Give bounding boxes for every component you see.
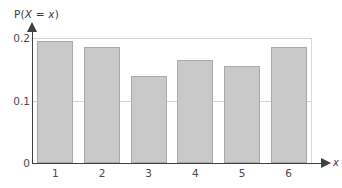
x-axis-tick-label: 6: [269, 167, 309, 179]
gridline: [32, 38, 312, 39]
y-axis-title-suffix: ): [55, 8, 59, 20]
bar: [84, 47, 120, 163]
bar: [271, 47, 307, 163]
bar: [224, 66, 260, 163]
y-axis-tick-label: 0: [2, 157, 30, 169]
chart-canvas: P(X = x) x 00.10.2 123456: [0, 0, 342, 188]
bar: [131, 76, 167, 164]
x-axis-tick-label: 3: [129, 167, 169, 179]
y-axis-line: [32, 31, 33, 163]
bar: [177, 60, 213, 163]
x-axis-title: x: [333, 157, 339, 168]
bar: [37, 41, 73, 163]
x-axis-tick-label: 5: [222, 167, 262, 179]
y-axis-tick-label: 0.1: [2, 95, 30, 107]
y-axis-title-middle: =: [32, 8, 48, 20]
x-axis-line: [32, 163, 323, 164]
y-axis-tick-label: 0.2: [2, 32, 30, 44]
y-axis-tick-labels: 00.10.2: [0, 0, 30, 188]
x-axis-arrow-icon: [321, 158, 331, 168]
x-axis-tick-label: 1: [35, 167, 75, 179]
x-axis-tick-label: 2: [82, 167, 122, 179]
x-axis-tick-label: 4: [175, 167, 215, 179]
